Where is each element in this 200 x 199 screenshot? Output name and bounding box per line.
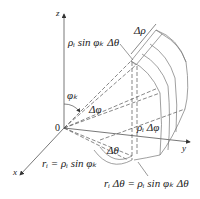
phi-arc (64, 104, 80, 112)
z-axis-label: z (56, 9, 60, 18)
phi-k-label: φₖ (67, 90, 78, 101)
diagram-canvas (0, 0, 200, 199)
r-i-equation-label: rᵢ = ρᵢ sin φₖ (42, 158, 97, 169)
rho-sin-phi-dtheta-label: ρᵢ sin φₖ Δθ (68, 37, 119, 48)
delta-phi-label: Δφ (89, 104, 102, 115)
delta-theta-label: Δθ (107, 145, 119, 156)
delta-rho-label: Δρ (134, 25, 146, 36)
y-axis-label: y (182, 144, 186, 153)
origin-label: 0 (55, 123, 60, 133)
leader-top (120, 44, 133, 60)
leader-bottom (138, 162, 148, 176)
y-axis (64, 128, 190, 142)
rho-delta-phi-label: ρᵢ Δφ (137, 122, 159, 133)
x-axis-label: x (13, 168, 17, 177)
arc-equation-label: rᵢ Δθ = ρᵢ sin φₖ Δθ (104, 178, 189, 189)
